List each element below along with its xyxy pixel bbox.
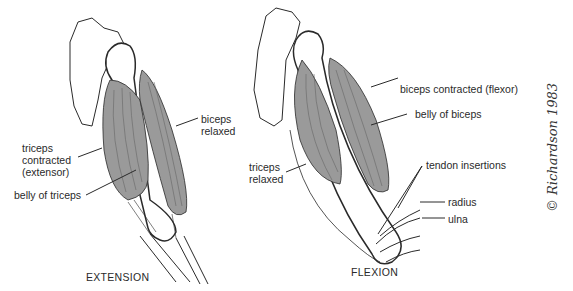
label-biceps-contracted: biceps contracted (flexor) <box>400 83 518 95</box>
label-text: relaxed <box>201 125 235 137</box>
extension-arm <box>70 18 208 284</box>
artist-signature: © Richardson 1983 <box>545 83 560 212</box>
label-text: triceps <box>22 142 71 154</box>
label-text: biceps <box>201 113 235 125</box>
label-triceps-relaxed: triceps relaxed <box>249 161 283 185</box>
label-triceps-contracted: triceps contracted (extensor) <box>22 142 71 178</box>
flexion-arm <box>254 8 420 264</box>
label-text: (extensor) <box>22 166 71 178</box>
label-text: triceps <box>249 161 283 173</box>
label-biceps-relaxed: biceps relaxed <box>201 113 235 137</box>
anatomy-illustration <box>0 0 573 291</box>
label-tendon-insertions: tendon insertions <box>426 159 506 171</box>
caption-flexion: FLEXION <box>351 266 398 278</box>
label-text: contracted <box>22 154 71 166</box>
label-belly-of-biceps: belly of biceps <box>415 108 482 120</box>
label-text: relaxed <box>249 173 283 185</box>
label-belly-of-triceps: belly of triceps <box>14 189 81 201</box>
caption-extension: EXTENSION <box>86 271 149 283</box>
label-radius: radius <box>448 196 477 208</box>
label-ulna: ulna <box>448 213 468 225</box>
